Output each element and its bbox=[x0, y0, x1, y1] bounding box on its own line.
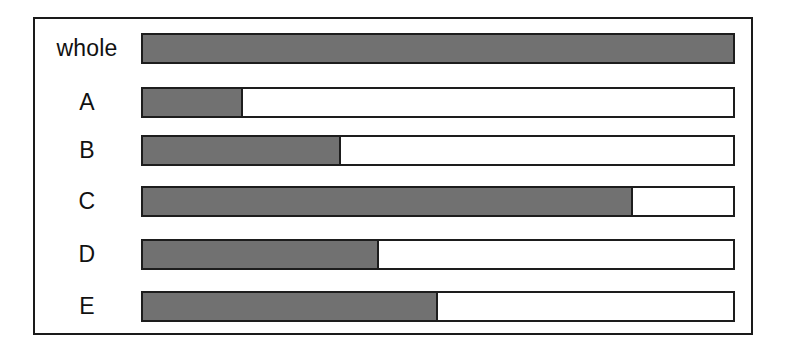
bar-track-c bbox=[141, 186, 735, 217]
bar-track-b bbox=[141, 135, 735, 166]
bar-row-b: B bbox=[35, 133, 751, 167]
bar-label-a: A bbox=[37, 85, 137, 119]
bar-fill-b bbox=[143, 137, 341, 164]
bar-fill-c bbox=[143, 188, 633, 215]
bar-row-d: D bbox=[35, 237, 751, 271]
bar-track-whole bbox=[141, 33, 735, 64]
bar-track-d bbox=[141, 239, 735, 270]
diagram-frame: whole A B C D bbox=[33, 17, 753, 335]
bar-label-e: E bbox=[37, 289, 137, 323]
bar-track-e bbox=[141, 291, 735, 322]
bar-row-c: C bbox=[35, 184, 751, 218]
bar-fill-a bbox=[143, 89, 243, 116]
proportion-bar-diagram: whole A B C D bbox=[0, 0, 786, 354]
bar-row-whole: whole bbox=[35, 31, 751, 65]
bar-label-c: C bbox=[37, 184, 137, 218]
bar-fill-whole bbox=[143, 35, 733, 62]
bar-fill-e bbox=[143, 293, 438, 320]
bar-row-e: E bbox=[35, 289, 751, 323]
bar-track-a bbox=[141, 87, 735, 118]
bar-label-d: D bbox=[37, 237, 137, 271]
bar-label-b: B bbox=[37, 133, 137, 167]
bar-row-a: A bbox=[35, 85, 751, 119]
bar-fill-d bbox=[143, 241, 379, 268]
bar-label-whole: whole bbox=[37, 31, 137, 65]
